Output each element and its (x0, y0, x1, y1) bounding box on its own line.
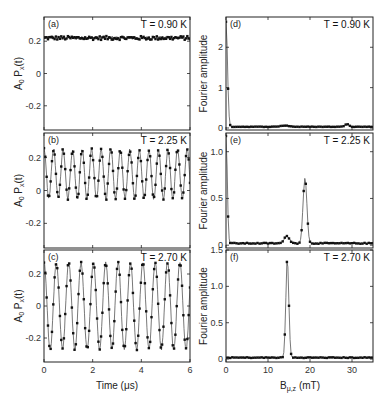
panel-label: (d) (230, 19, 241, 29)
data-point (144, 194, 146, 196)
data-point (261, 125, 263, 127)
data-point (182, 35, 184, 37)
data-point (118, 39, 120, 41)
data-point (169, 167, 171, 169)
data-point (368, 242, 370, 244)
y-tick-label: 0 (36, 186, 41, 196)
data-point (60, 339, 62, 341)
data-point (292, 242, 294, 244)
data-point (68, 262, 70, 264)
data-point (53, 276, 55, 278)
panel-a: -0.200.2(a)T = 0.90 KA0 Px(t) (13, 17, 191, 130)
data-point (351, 242, 353, 244)
data-point (282, 240, 284, 242)
data-point (97, 179, 99, 181)
data-point (279, 242, 281, 244)
y-axis-title: A0 Px(t) (13, 174, 25, 207)
data-point (150, 38, 152, 40)
data-point (370, 242, 372, 244)
data-point (114, 290, 116, 292)
data-point (338, 126, 340, 128)
data-series (225, 21, 374, 129)
y-tick-label: 0.2 (28, 269, 41, 279)
data-point (368, 356, 370, 358)
data-point (317, 356, 319, 358)
data-point (258, 125, 260, 127)
data-point (108, 308, 110, 310)
data-point (99, 159, 101, 161)
y-axis-title: Fourier amplitude (198, 34, 209, 112)
data-point (89, 303, 91, 305)
data-series (225, 135, 374, 245)
data-point (61, 148, 63, 150)
panel-label: (a) (48, 19, 59, 29)
data-point (101, 156, 103, 158)
data-point (288, 237, 290, 239)
data-point (324, 126, 326, 128)
data-point (355, 357, 357, 359)
data-point (353, 357, 355, 359)
data-point (129, 262, 131, 264)
data-point (242, 356, 244, 358)
data-point (248, 242, 250, 244)
data-point (334, 242, 336, 244)
data-point (305, 183, 307, 185)
data-point (140, 160, 142, 162)
data-point (355, 126, 357, 128)
data-point (286, 124, 288, 126)
data-point (319, 125, 321, 127)
data-point (321, 242, 323, 244)
data-point (144, 282, 146, 284)
data-point (52, 150, 54, 152)
data-point (120, 301, 122, 303)
data-point (91, 276, 93, 278)
y-tick-label: 0 (218, 354, 223, 364)
y-tick-label: -0.2 (25, 218, 41, 228)
data-point (317, 243, 319, 245)
data-point (137, 335, 139, 337)
data-point (254, 242, 256, 244)
data-point (180, 264, 182, 266)
data-point (77, 293, 79, 295)
data-point (313, 126, 315, 128)
data-point (166, 149, 168, 151)
data-point (298, 126, 300, 128)
data-point (59, 184, 61, 186)
data-point (361, 126, 363, 128)
data-point (57, 196, 59, 198)
data-point (338, 357, 340, 359)
data-point (252, 126, 254, 128)
data-point (261, 356, 263, 358)
data-point (73, 165, 75, 167)
x-axis-title-field: Bμ,z (mT) (280, 380, 320, 393)
data-point (117, 261, 119, 263)
temperature-label: T = 0.90 K (324, 19, 371, 30)
data-point (72, 150, 74, 152)
data-point (313, 356, 315, 358)
data-point (160, 173, 162, 175)
data-point (133, 319, 135, 321)
fit-line (44, 148, 190, 200)
y-tick-label: -0.2 (25, 101, 41, 111)
data-point (61, 347, 63, 349)
data-point (148, 149, 150, 151)
data-point (183, 338, 185, 340)
data-point (284, 333, 286, 335)
y-tick-label: 0.2 (28, 153, 41, 163)
data-point (145, 178, 147, 180)
data-point (334, 126, 336, 128)
data-point (284, 236, 286, 238)
data-point (311, 125, 313, 127)
data-point (116, 187, 118, 189)
fit-line (44, 262, 190, 350)
fit-line (226, 262, 373, 358)
data-point (229, 242, 231, 244)
data-point (229, 124, 231, 126)
data-point (56, 191, 58, 193)
data-point (55, 35, 57, 37)
y-tick-label: 1.5 (210, 245, 223, 255)
plot-frame (226, 250, 373, 362)
data-point (92, 263, 94, 265)
data-point (125, 328, 127, 330)
data-point (357, 125, 359, 127)
